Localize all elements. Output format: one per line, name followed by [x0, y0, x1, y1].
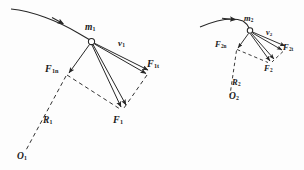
velocity-label-2-sub: 2: [270, 32, 273, 37]
force-component-line-2: [252, 34, 275, 60]
force-resultant-label-2-sub: 2: [270, 67, 273, 73]
force-tangential-vector-1: [95, 44, 147, 74]
force-tangential-label-2-sub: 2t: [289, 46, 294, 52]
radius-label-2: R2: [232, 78, 241, 87]
mass-label-2-sub: 2: [251, 17, 254, 23]
force-normal-label-1-text: F: [45, 63, 52, 74]
force-normal-vector-2: [238, 34, 249, 49]
center-label-2-sub: 2: [236, 95, 239, 101]
force-tangential-label-2: F2t: [283, 43, 293, 52]
mass-label-1: m1: [85, 23, 96, 33]
radius-line-2: [230, 51, 237, 96]
force-resultant-label-1-sub: 1: [120, 118, 123, 125]
force-normal-label-2-sub: 2n: [221, 43, 227, 49]
center-label-2: O2: [229, 92, 239, 102]
force-resultant-label-1-text: F: [113, 114, 120, 125]
diagram-canvas: [0, 0, 304, 170]
force-normal-label-2-text: F: [215, 39, 221, 49]
force-resultant-label-2-text: F: [264, 63, 270, 73]
force-resultant-label-1: F1: [113, 115, 123, 125]
center-label-2-text: O: [229, 91, 236, 101]
parallelogram-side-1-b: [124, 75, 147, 108]
mass-marker-1: [88, 38, 94, 44]
radius-label-2-text: R: [232, 77, 238, 87]
physics-force-diagram: m1 v1 F1t F1n F1 R1 O1 m2 v2 F2t F2n F2 …: [0, 0, 304, 170]
velocity-label-1-sub: 1: [122, 42, 125, 48]
mass-label-2-text: m: [244, 13, 251, 23]
mass-label-2: m2: [244, 14, 253, 23]
center-label-1: O1: [17, 152, 27, 162]
radius-label-1-sub: 1: [50, 119, 53, 125]
radius-line-1: [25, 76, 66, 152]
trajectory-curve-2: [200, 19, 243, 27]
force-tangential-label-1-sub: 1t: [154, 62, 159, 69]
mass-label-1-sub: 1: [93, 26, 96, 32]
force-tangential-label-1: F1t: [147, 59, 159, 69]
force-normal-vector-1: [69, 45, 90, 74]
radius-label-1-text: R: [43, 115, 49, 125]
force-component-line-1: [93, 45, 126, 106]
force-resultant-label-2: F2: [264, 64, 273, 73]
radius-label-2-sub: 2: [238, 81, 241, 87]
velocity-label-2: v2: [266, 29, 272, 37]
force-normal-label-2: F2n: [215, 40, 227, 49]
trajectory-curve-1-tail: [78, 33, 90, 40]
force-tangential-label-1-text: F: [147, 58, 154, 69]
parallelogram-side-2-b: [272, 52, 283, 63]
force-normal-label-1-sub: 1n: [52, 67, 59, 74]
velocity-label-1: v1: [118, 39, 125, 48]
radius-label-1: R1: [43, 116, 52, 126]
center-label-1-sub: 1: [24, 155, 27, 161]
force-tangential-label-2-text: F: [283, 42, 289, 52]
center-label-1-text: O: [17, 151, 24, 161]
trajectory-curve-1: [11, 9, 78, 33]
mass-marker-2: [247, 28, 252, 33]
mass-label-1-text: m: [85, 22, 93, 32]
force-normal-label-1: F1n: [45, 64, 59, 74]
